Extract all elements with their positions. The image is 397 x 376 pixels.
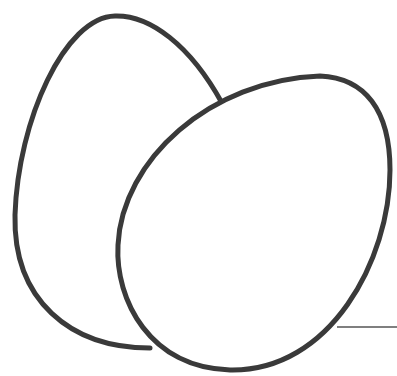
- eggs-drawing: [0, 0, 397, 376]
- eggs-illustration: [0, 0, 397, 376]
- front-egg-outline: [118, 76, 390, 370]
